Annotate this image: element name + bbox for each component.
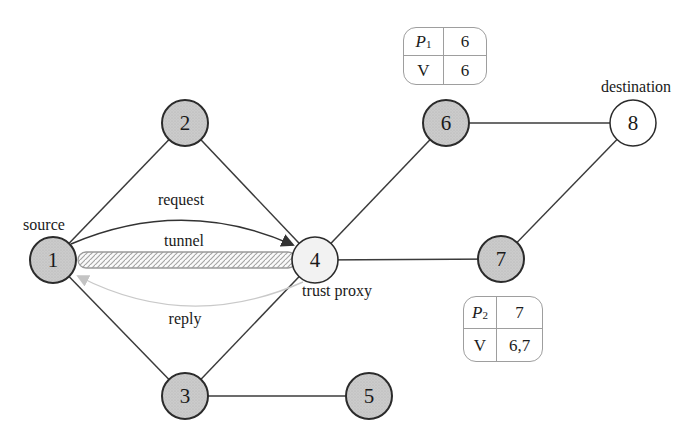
destination-annotation: destination [601, 78, 671, 95]
p2-v-value-cell: 6,7 [497, 329, 542, 361]
node-2: 2 [162, 100, 208, 146]
node-3-label: 3 [180, 384, 191, 408]
node-7-label: 7 [496, 247, 507, 271]
reply-label: reply [169, 310, 202, 328]
source-annotation: source [23, 216, 65, 233]
node-5: 5 [346, 373, 392, 419]
node-6-label: 6 [441, 111, 452, 135]
node-8-label: 8 [628, 111, 639, 135]
node-6: 6 [423, 100, 469, 146]
p1-path-value-cell: 6 [444, 28, 486, 56]
edge-4-6 [315, 123, 446, 260]
p1-v-label-cell: V [404, 56, 444, 84]
p2-name-subscript: 2 [482, 310, 488, 321]
p1-name-label: P [416, 33, 426, 50]
p1-name-cell: P1 [404, 28, 444, 56]
p2-name-cell: P2 [464, 297, 497, 329]
path-table-p1: P1 6 V 6 [403, 27, 487, 85]
node-4: 4 [292, 237, 338, 283]
node-7: 7 [478, 236, 524, 282]
p2-v-label-cell: V [464, 329, 497, 361]
edge-3-4 [185, 260, 315, 396]
edge-4-7 [315, 259, 501, 260]
trust-proxy-annotation: trust proxy [302, 282, 372, 300]
request-label: request [158, 191, 205, 209]
node-8: 8 [610, 100, 656, 146]
p2-name-label: P [472, 304, 482, 321]
node-1: 1 [30, 237, 76, 283]
node-5-label: 5 [364, 384, 375, 408]
p2-path-value-cell: 7 [497, 297, 542, 329]
p1-name-subscript: 1 [426, 39, 432, 50]
edge-2-4 [185, 123, 315, 260]
node-1-label: 1 [48, 248, 59, 272]
p1-v-value-cell: 6 [444, 56, 486, 84]
network-diagram-figure: 1 2 3 4 5 6 7 8 source [0, 0, 688, 440]
node-3: 3 [162, 373, 208, 419]
reply-arc [78, 276, 303, 306]
node-2-label: 2 [180, 111, 191, 135]
edge-7-8 [501, 123, 633, 259]
tunnel-capsule [78, 252, 296, 268]
node-4-label: 4 [310, 248, 321, 272]
edge-1-3 [53, 260, 185, 396]
path-table-p2: P2 7 V 6,7 [463, 296, 543, 362]
tunnel-label: tunnel [164, 232, 205, 249]
graph-canvas: 1 2 3 4 5 6 7 8 source [0, 0, 688, 440]
